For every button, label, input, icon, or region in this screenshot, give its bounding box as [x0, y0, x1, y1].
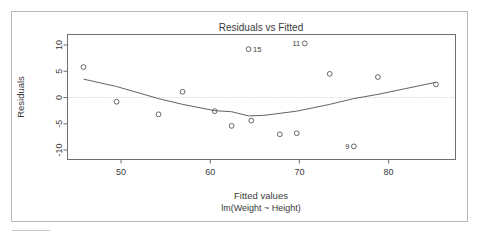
plot-box: [68, 35, 456, 160]
data-point-label: 15: [253, 45, 261, 54]
y-tick-label: -10: [55, 144, 65, 157]
data-point: [114, 99, 119, 104]
data-point-label: 11: [292, 39, 300, 48]
lowess-path: [84, 79, 436, 116]
data-point: [277, 132, 282, 137]
data-points: 15119: [81, 39, 438, 151]
y-axis: 1050-5-10: [55, 40, 68, 157]
x-tick-label: 70: [294, 167, 304, 177]
x-axis-title: Fitted values: [234, 190, 288, 201]
data-point: [81, 65, 86, 70]
data-point: [376, 75, 381, 80]
plot-canvas: Residuals vs Fitted Residuals Fitted val…: [0, 0, 480, 237]
data-point: [327, 71, 332, 76]
data-point: [180, 89, 185, 94]
x-tick-label: 60: [205, 167, 215, 177]
y-tick-label: 10: [55, 40, 65, 50]
chart-title: Residuals vs Fitted: [219, 22, 303, 33]
data-point: [294, 131, 299, 136]
x-axis: 50607080: [116, 160, 394, 177]
residuals-vs-fitted-plot: Residuals vs Fitted Residuals Fitted val…: [0, 0, 480, 237]
lowess-smoother-curve: [84, 79, 436, 116]
data-point: [249, 118, 254, 123]
y-tick-label: 0: [55, 95, 65, 100]
data-point-label: 9: [345, 142, 349, 151]
y-tick-label: -5: [55, 120, 65, 128]
data-point: [229, 123, 234, 128]
data-point: [246, 47, 251, 52]
y-axis-title: Residuals: [15, 76, 26, 118]
data-point: [302, 41, 307, 46]
x-tick-label: 50: [116, 167, 126, 177]
y-tick-label: 5: [55, 69, 65, 74]
x-tick-label: 80: [384, 167, 394, 177]
chart-subtitle: lm(Weight ~ Height): [221, 203, 301, 213]
data-point: [156, 112, 161, 117]
data-point: [351, 144, 356, 149]
